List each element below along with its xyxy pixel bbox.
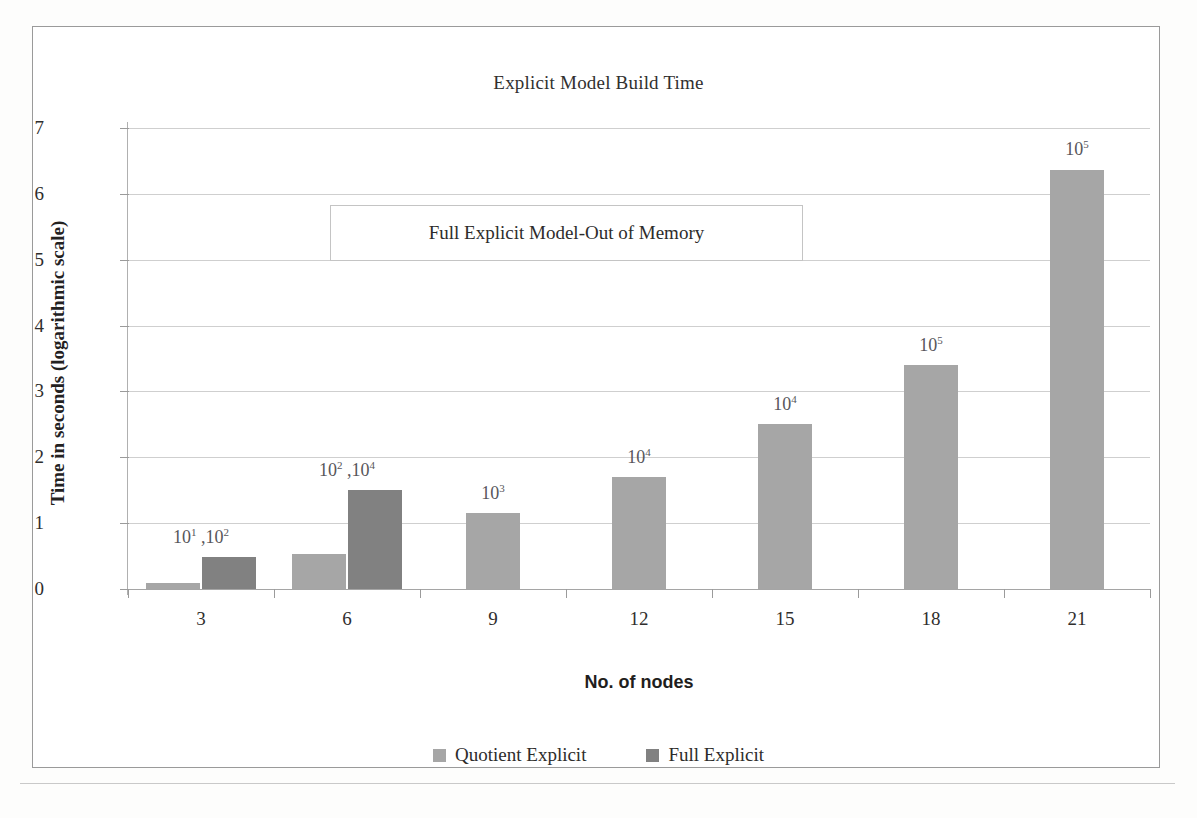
y-tick-label-0: 0	[4, 578, 44, 600]
x-axis-title: No. of nodes	[128, 672, 1150, 693]
y-tick-1	[120, 523, 129, 524]
x-tick-label-18: 18	[891, 608, 971, 630]
legend-item-quotient-explicit[interactable]: Quotient Explicit	[433, 744, 586, 766]
out-of-memory-annotation: Full Explicit Model-Out of Memory	[330, 205, 803, 261]
y-tick-label-3: 3	[4, 380, 44, 402]
y-tick-label-7: 7	[4, 117, 44, 139]
legend: Quotient ExplicitFull Explicit	[0, 744, 1197, 766]
x-tick-label-6: 6	[307, 608, 387, 630]
bar-value-label-21: 105	[1065, 139, 1089, 160]
bar-quotient-18	[904, 365, 958, 589]
x-tick-3	[566, 589, 567, 598]
gridline-4	[128, 326, 1150, 327]
legend-item-full-explicit[interactable]: Full Explicit	[646, 744, 764, 766]
x-tick-5	[858, 589, 859, 598]
bar-quotient-12	[612, 477, 666, 589]
bar-value-label-3: 101 ,102	[173, 527, 229, 548]
bar-value-label-12: 104	[627, 447, 651, 468]
bar-full-6	[348, 490, 402, 589]
legend-swatch-icon	[646, 749, 659, 762]
bar-quotient-9	[466, 513, 520, 589]
x-tick-2	[420, 589, 421, 598]
y-tick-label-2: 2	[4, 446, 44, 468]
legend-label: Full Explicit	[668, 744, 764, 766]
bar-full-3	[202, 557, 256, 589]
x-tick-1	[274, 589, 275, 598]
x-tick-6	[1004, 589, 1005, 598]
y-tick-label-5: 5	[4, 249, 44, 271]
annotation-text: Full Explicit Model-Out of Memory	[429, 222, 704, 244]
gridline-6	[128, 194, 1150, 195]
bar-value-label-18: 105	[919, 335, 943, 356]
gridline-0	[128, 589, 1150, 590]
bar-value-label-6: 102 ,104	[319, 460, 375, 481]
y-tick-5	[120, 260, 129, 261]
bar-quotient-3	[146, 583, 200, 589]
bar-quotient-15	[758, 424, 812, 589]
y-tick-2	[120, 457, 129, 458]
x-tick-label-9: 9	[453, 608, 533, 630]
x-tick-4	[712, 589, 713, 598]
x-tick-0	[128, 589, 129, 598]
y-tick-4	[120, 326, 129, 327]
y-tick-label-4: 4	[4, 315, 44, 337]
bar-quotient-21	[1050, 170, 1104, 590]
x-tick-label-12: 12	[599, 608, 679, 630]
y-tick-7	[120, 128, 129, 129]
bar-value-label-9: 103	[481, 483, 505, 504]
x-tick-7	[1150, 589, 1151, 598]
gridline-7	[128, 128, 1150, 129]
y-tick-label-6: 6	[4, 183, 44, 205]
legend-label: Quotient Explicit	[455, 744, 586, 766]
gridline-3	[128, 391, 1150, 392]
bar-quotient-6	[292, 554, 346, 589]
y-tick-3	[120, 391, 129, 392]
page-rule	[20, 783, 1175, 784]
plot-area: 101 ,102102 ,104103104104105105	[128, 128, 1150, 589]
scanned-page: Explicit Model Build Time Time in second…	[0, 0, 1197, 818]
chart-title: Explicit Model Build Time	[0, 72, 1197, 94]
y-tick-label-1: 1	[4, 512, 44, 534]
legend-swatch-icon	[433, 749, 446, 762]
x-tick-label-3: 3	[161, 608, 241, 630]
x-tick-label-15: 15	[745, 608, 825, 630]
bar-value-label-15: 104	[773, 394, 797, 415]
x-tick-label-21: 21	[1037, 608, 1117, 630]
y-tick-6	[120, 194, 129, 195]
y-axis-title: Time in seconds (logarithmic scale)	[47, 153, 69, 573]
